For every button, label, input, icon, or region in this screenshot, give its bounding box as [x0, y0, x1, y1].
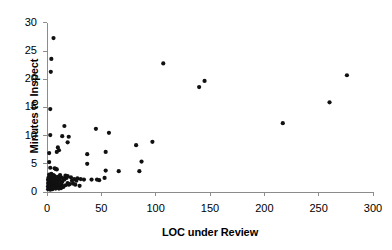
data-point: [78, 184, 82, 188]
data-point: [85, 162, 89, 166]
x-axis-title: LOC under Review: [47, 226, 373, 238]
data-point: [57, 187, 61, 191]
data-point: [94, 127, 98, 131]
data-point: [102, 176, 106, 180]
x-tick-label: 300: [356, 203, 390, 214]
data-point: [46, 187, 50, 191]
data-point: [107, 131, 111, 135]
data-point: [82, 177, 86, 181]
scatter-chart: 051015202530 050100150200250300 Minutes …: [0, 0, 392, 250]
data-point: [47, 172, 51, 176]
data-point: [134, 143, 138, 147]
data-point: [89, 177, 93, 181]
data-point: [345, 73, 349, 77]
data-point: [137, 169, 141, 173]
data-point: [47, 151, 51, 155]
x-tick-label: 0: [30, 203, 64, 214]
x-tick-label: 250: [302, 203, 336, 214]
data-point: [47, 160, 51, 164]
data-point: [281, 121, 285, 125]
data-point: [202, 79, 206, 83]
data-point: [150, 140, 154, 144]
data-point: [117, 169, 121, 173]
x-tick-label: 150: [193, 203, 227, 214]
data-point: [55, 150, 59, 154]
data-point: [73, 183, 77, 187]
data-point: [67, 135, 71, 139]
data-point: [62, 124, 66, 128]
data-point: [104, 150, 108, 154]
data-point: [161, 61, 165, 65]
data-point: [74, 179, 78, 183]
y-axis-title: Minutes to Inspect: [28, 26, 40, 186]
data-point: [60, 134, 64, 138]
data-point: [139, 159, 143, 163]
data-point: [51, 36, 55, 40]
x-axis-ticks: [47, 192, 373, 196]
y-axis-ticks: [43, 23, 47, 192]
x-tick-label: 50: [84, 203, 118, 214]
data-point: [55, 167, 59, 171]
x-tick-label: 100: [139, 203, 173, 214]
data-point: [85, 152, 89, 156]
data-point: [49, 57, 53, 61]
data-point: [48, 166, 52, 170]
data-point: [197, 85, 201, 89]
data-point: [51, 173, 55, 177]
data-point: [97, 178, 101, 182]
axes-group: [47, 23, 373, 192]
data-point: [49, 70, 53, 74]
data-point: [66, 140, 70, 144]
data-point: [48, 133, 52, 137]
data-point: [58, 173, 62, 177]
data-point: [327, 100, 331, 104]
data-point: [66, 174, 70, 178]
data-points-layer: [46, 36, 349, 192]
data-point: [104, 168, 108, 172]
data-point: [48, 107, 52, 111]
x-tick-label: 200: [247, 203, 281, 214]
y-tick-label: 0: [11, 186, 37, 197]
